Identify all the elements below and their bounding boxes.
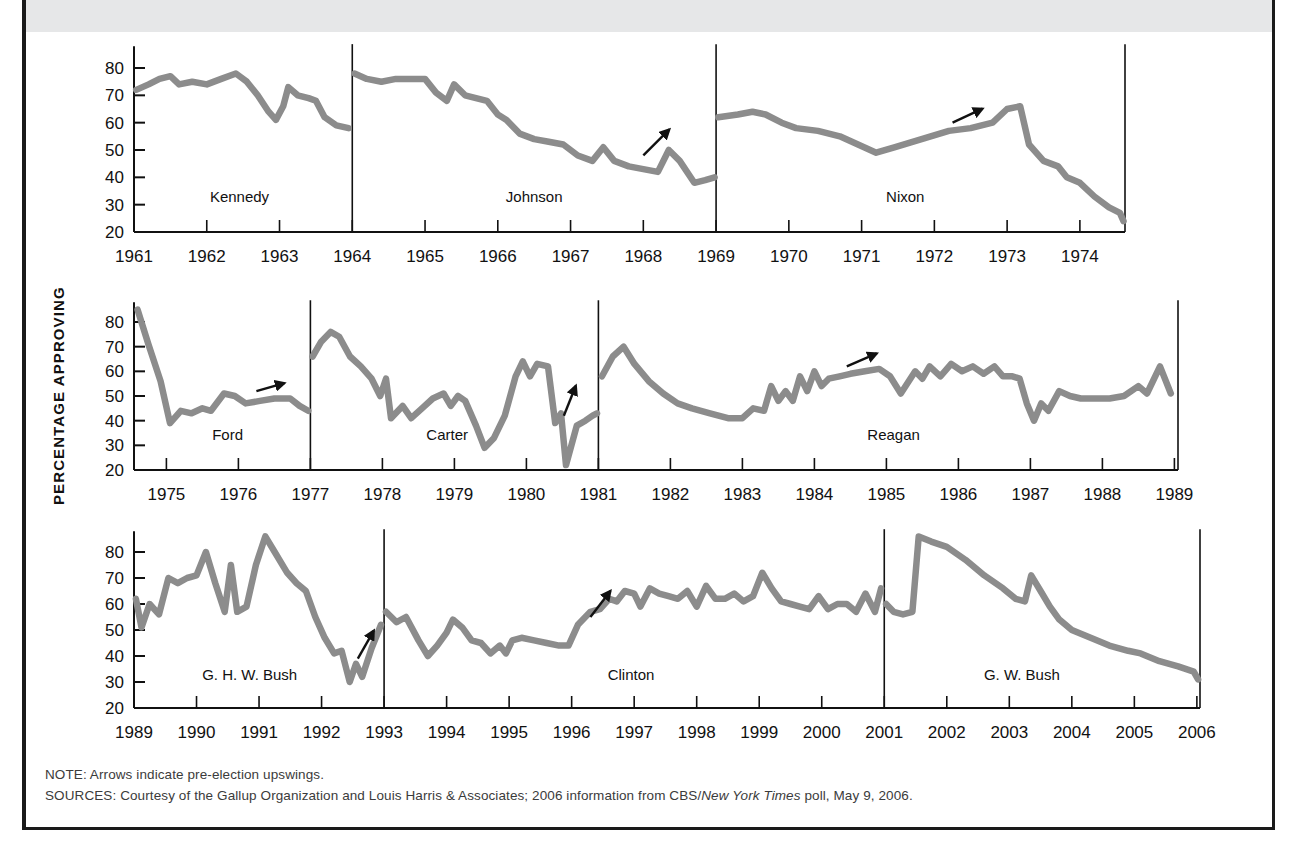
x-tick-label: 1974 [1061,247,1099,266]
y-tick-label: 80 [105,59,124,78]
president-label: Kennedy [210,188,270,205]
president-label: G. W. Bush [984,666,1060,683]
y-tick-label: 50 [105,141,124,160]
y-tick-label: 50 [105,387,124,406]
x-tick-label: 2003 [990,723,1028,742]
y-tick-label: 30 [105,196,124,215]
x-tick-label: 1967 [552,247,590,266]
approval-chart: 2030405060708019611962196319641965196619… [0,0,1289,760]
x-tick-label: 1986 [939,485,977,504]
x-tick-label: 1978 [363,485,401,504]
x-tick-label: 1979 [435,485,473,504]
x-tick-label: 1966 [479,247,517,266]
bottom-border-rule [22,827,1275,830]
chart-row-2: 2030405060708019751976197719781979198019… [105,300,1193,504]
x-tick-label: 1975 [147,485,185,504]
y-tick-label: 80 [105,543,124,562]
x-tick-label: 1981 [579,485,617,504]
x-tick-label: 1970 [770,247,808,266]
x-tick-label: 1980 [507,485,545,504]
x-tick-label: 1989 [115,723,153,742]
y-tick-label: 20 [105,461,124,480]
president-label: Ford [212,426,243,443]
president-label: Clinton [608,666,655,683]
y-tick-label: 70 [105,569,124,588]
x-tick-label: 1971 [843,247,881,266]
approval-line-Ford [138,310,309,423]
x-tick-label: 1996 [553,723,591,742]
y-tick-label: 60 [105,362,124,381]
x-tick-label: 1963 [261,247,299,266]
x-tick-label: 1969 [697,247,735,266]
x-tick-label: 1998 [678,723,716,742]
sources-prefix: SOURCES: Courtesy of the Gallup Organiza… [45,788,701,803]
x-tick-label: 1987 [1011,485,1049,504]
x-tick-label: 1985 [867,485,905,504]
president-label: G. H. W. Bush [202,666,297,683]
x-tick-label: 1982 [651,485,689,504]
chart-row-1: 2030405060708019611962196319641965196619… [105,44,1125,266]
upswing-arrow-icon [256,383,284,391]
president-label: Nixon [886,188,924,205]
x-tick-label: 2001 [865,723,903,742]
y-tick-label: 80 [105,313,124,332]
approval-chart-svg: 2030405060708019611962196319641965196619… [0,0,1289,760]
x-tick-label: 2005 [1115,723,1153,742]
approval-line-Clinton [386,573,881,656]
figure-page: PERCENTAGE APPROVING 2030405060708019611… [0,0,1289,841]
x-tick-label: 1961 [115,247,153,266]
y-tick-label: 70 [105,338,124,357]
x-tick-label: 1989 [1155,485,1193,504]
x-tick-label: 1992 [303,723,341,742]
sources-italic-title: New York Times [701,788,800,803]
y-tick-label: 40 [105,168,124,187]
x-tick-label: 1988 [1083,485,1121,504]
y-tick-label: 70 [105,86,124,105]
x-tick-label: 2004 [1053,723,1091,742]
approval-line-Carter [313,332,597,465]
president-label: Reagan [867,426,920,443]
x-tick-label: 1997 [615,723,653,742]
note-sources: SOURCES: Courtesy of the Gallup Organiza… [45,785,1245,806]
y-tick-label: 60 [105,595,124,614]
sources-suffix: poll, May 9, 2006. [801,788,913,803]
x-tick-label: 1995 [490,723,528,742]
x-tick-label: 1984 [795,485,833,504]
y-tick-label: 50 [105,621,124,640]
y-tick-label: 30 [105,436,124,455]
president-label: Carter [426,426,468,443]
upswing-arrow-icon [847,353,877,366]
y-tick-label: 60 [105,114,124,133]
x-tick-label: 1972 [915,247,953,266]
president-label: Johnson [506,188,563,205]
x-tick-label: 1983 [723,485,761,504]
x-tick-label: 1973 [988,247,1026,266]
y-tick-label: 20 [105,223,124,242]
figure-notes: NOTE: Arrows indicate pre-election upswi… [45,764,1245,806]
chart-row-3: 2030405060708019891990199119921993199419… [105,529,1216,742]
x-tick-label: 1968 [624,247,662,266]
approval-line-Kennedy [136,74,348,129]
x-tick-label: 1990 [178,723,216,742]
x-tick-label: 1964 [333,247,371,266]
approval-line-Reagan [602,347,1171,421]
x-tick-label: 1993 [365,723,403,742]
x-tick-label: 1999 [740,723,778,742]
y-tick-label: 40 [105,647,124,666]
x-tick-label: 1962 [188,247,226,266]
x-tick-label: 1965 [406,247,444,266]
y-tick-label: 30 [105,673,124,692]
approval-line-Johnson [355,74,715,183]
y-tick-label: 20 [105,699,124,718]
x-tick-label: 1976 [219,485,257,504]
approval-line-GHWBush [136,536,381,682]
x-tick-label: 2000 [803,723,841,742]
x-tick-label: 1994 [428,723,466,742]
x-tick-label: 2006 [1178,723,1216,742]
x-tick-label: 2002 [928,723,966,742]
x-tick-label: 1991 [240,723,278,742]
y-tick-label: 40 [105,412,124,431]
approval-line-GWBush [886,536,1198,679]
x-tick-label: 1977 [291,485,329,504]
upswing-arrow-icon [953,109,983,123]
